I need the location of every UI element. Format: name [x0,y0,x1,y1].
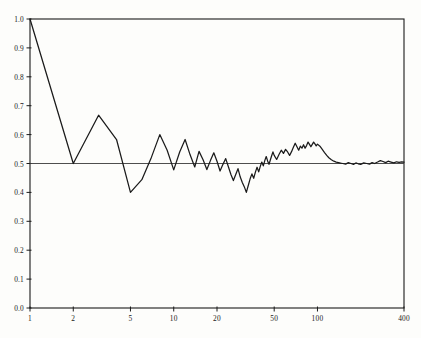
y-tick-label: 0.0 [2,304,24,313]
y-tick-label: 0.3 [2,217,24,226]
y-tick-label: 0.2 [2,246,24,255]
y-tick-label: 0.9 [2,43,24,52]
relative-frequency-line [30,19,404,192]
x-tick-label: 2 [71,314,75,323]
y-tick-label: 0.5 [2,159,24,168]
x-axis-ticks [30,307,404,312]
x-tick-label: 50 [270,314,278,323]
y-tick-label: 1.0 [2,15,24,24]
x-tick-label: 100 [312,314,324,323]
chart-figure: 0.00.10.20.30.40.50.60.70.80.91.0 125102… [0,0,421,338]
x-tick-label: 20 [213,314,221,323]
y-tick-label: 0.8 [2,72,24,81]
x-tick-label: 10 [170,314,178,323]
y-tick-label: 0.4 [2,188,24,197]
y-tick-label: 0.1 [2,275,24,284]
convergence-line-chart [0,0,421,338]
x-tick-label: 1 [28,314,32,323]
x-tick-label: 5 [129,314,133,323]
x-tick-label: 400 [398,314,410,323]
y-tick-label: 0.6 [2,130,24,139]
y-tick-label: 0.7 [2,101,24,110]
